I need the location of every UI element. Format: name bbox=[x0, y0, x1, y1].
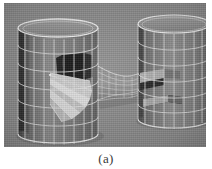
figure-image bbox=[4, 3, 206, 147]
figure-caption: (a) bbox=[0, 148, 212, 169]
right-cylinder bbox=[138, 15, 206, 129]
figure-panel: (a) bbox=[0, 0, 212, 169]
left-cylinder-cap bbox=[18, 19, 98, 37]
left-cylinder bbox=[18, 19, 98, 145]
right-cylinder-cap bbox=[138, 15, 206, 33]
scene-rendering bbox=[4, 3, 206, 147]
